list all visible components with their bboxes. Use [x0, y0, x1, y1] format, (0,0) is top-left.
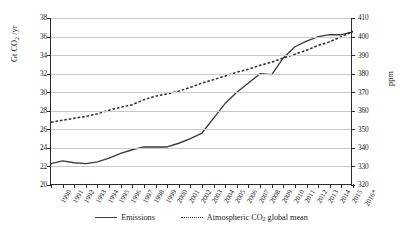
- y-tick-left: [47, 18, 51, 19]
- x-tick: [144, 184, 145, 188]
- y-tick-left: [47, 92, 51, 93]
- x-tick-label: 1990: [60, 189, 73, 205]
- y-tick-label-left: 20: [7, 181, 47, 188]
- series-line-co2: [51, 31, 353, 122]
- chart-container: Gt CO2 /yr ppm 38363432302826242220 4104…: [0, 0, 403, 237]
- x-tick: [248, 184, 249, 188]
- x-tick-label: 2006: [246, 189, 259, 205]
- dotted-line-icon: [181, 217, 203, 218]
- gridline: [51, 37, 351, 38]
- y-tick-right: [351, 129, 355, 130]
- legend-item-co2: Atmospheric CO2 global mean: [181, 213, 308, 222]
- x-tick: [74, 184, 75, 188]
- y-tick-right: [351, 92, 355, 93]
- x-tick: [260, 184, 261, 188]
- plot-area: [50, 18, 352, 185]
- x-tick-label: 2001: [188, 189, 201, 205]
- x-tick: [330, 184, 331, 188]
- y-tick-right: [351, 55, 355, 56]
- x-tick: [295, 184, 296, 188]
- y-tick-label-right: 340: [358, 144, 398, 151]
- y-tick-label-left: 30: [7, 89, 47, 96]
- y-tick-label-right: 390: [358, 52, 398, 59]
- x-tick: [225, 184, 226, 188]
- legend-label-emissions: Emissions: [121, 213, 155, 222]
- x-tick-label: 2005: [235, 189, 248, 205]
- gridline: [51, 148, 351, 149]
- legend-item-emissions: Emissions: [95, 213, 155, 222]
- x-tick: [353, 184, 354, 188]
- chart-series-svg: [51, 18, 353, 185]
- x-tick: [179, 184, 180, 188]
- x-tick-label: 1995: [118, 189, 131, 205]
- x-tick: [190, 184, 191, 188]
- y-tick-label-right: 370: [358, 89, 398, 96]
- x-tick: [97, 184, 98, 188]
- x-tick: [307, 184, 308, 188]
- y-tick-left: [47, 74, 51, 75]
- x-tick: [86, 184, 87, 188]
- gridline: [51, 166, 351, 167]
- y-tick-label-right: 380: [358, 70, 398, 77]
- x-tick-label: 1998: [153, 189, 166, 205]
- y-tick-label-right: 410: [358, 14, 398, 21]
- y-tick-label-left: 34: [7, 52, 47, 59]
- y-tick-left: [47, 37, 51, 38]
- y-tick-right: [351, 111, 355, 112]
- gridline: [51, 92, 351, 93]
- solid-line-icon: [95, 217, 117, 218]
- legend-label-co2: Atmospheric CO2 global mean: [207, 213, 308, 222]
- y-tick-label-right: 320: [358, 181, 398, 188]
- y-tick-label-left: 32: [7, 70, 47, 77]
- x-tick: [202, 184, 203, 188]
- x-tick: [283, 184, 284, 188]
- x-tick-label: 1992: [84, 189, 97, 205]
- y-tick-label-right: 350: [358, 126, 398, 133]
- y-tick-left: [47, 129, 51, 130]
- x-tick-label: 2003: [211, 189, 224, 205]
- x-tick: [237, 184, 238, 188]
- gridline: [51, 74, 351, 75]
- gridline: [51, 111, 351, 112]
- y-tick-left: [47, 166, 51, 167]
- x-tick-label: 2000: [176, 189, 189, 205]
- y-tick-label-right: 400: [358, 33, 398, 40]
- y-tick-label-left: 28: [7, 107, 47, 114]
- x-tick: [121, 184, 122, 188]
- y-tick-right: [351, 148, 355, 149]
- x-tick: [156, 184, 157, 188]
- x-tick: [214, 184, 215, 188]
- y-tick-label-left: 26: [7, 126, 47, 133]
- x-tick: [272, 184, 273, 188]
- x-tick: [318, 184, 319, 188]
- y-tick-left: [47, 148, 51, 149]
- y-tick-label-left: 22: [7, 163, 47, 170]
- x-tick-label: 2016*: [364, 189, 379, 208]
- x-tick-label: 2014: [339, 189, 352, 205]
- x-tick: [63, 184, 64, 188]
- x-tick: [341, 184, 342, 188]
- gridline: [51, 55, 351, 56]
- gridline: [51, 18, 351, 19]
- x-tick-label: 2008: [269, 189, 282, 205]
- x-tick-label: 2015: [351, 189, 364, 205]
- x-tick-label: 2009: [281, 189, 294, 205]
- y-tick-label-right: 330: [358, 163, 398, 170]
- y-tick-label-left: 38: [7, 14, 47, 21]
- x-tick-label: 2013: [327, 189, 340, 205]
- series-line-emissions: [51, 32, 353, 164]
- y-tick-right: [351, 166, 355, 167]
- y-tick-label-left: 36: [7, 33, 47, 40]
- y-tick-label-right: 360: [358, 107, 398, 114]
- x-tick: [167, 184, 168, 188]
- chart-legend: Emissions Atmospheric CO2 global mean: [0, 213, 403, 222]
- gridline: [51, 129, 351, 130]
- y-tick-right: [351, 18, 355, 19]
- x-tick-label: 1993: [95, 189, 108, 205]
- y-tick-right: [351, 37, 355, 38]
- x-tick: [132, 184, 133, 188]
- y-tick-left: [47, 111, 51, 112]
- x-tick-label: 1997: [142, 189, 155, 205]
- y-tick-right: [351, 74, 355, 75]
- y-tick-left: [47, 55, 51, 56]
